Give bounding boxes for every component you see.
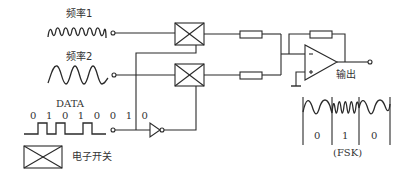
data-bits: 0 1 0 1 0 0 1 0 <box>30 111 151 121</box>
wire-ground <box>296 72 305 86</box>
freq1-label: 频率1 <box>66 9 92 19</box>
data-waveform <box>24 123 106 134</box>
fsk-waveform <box>303 100 390 114</box>
freq2-label: 频率2 <box>66 52 92 62</box>
fsk-bit-label-2: 0 <box>371 131 377 141</box>
op-amp <box>305 45 337 80</box>
electronic-switch-1 <box>175 23 204 45</box>
wire-inverter-to-switch2-control <box>164 86 196 130</box>
inverter-gate <box>150 123 164 137</box>
freq2-waveform <box>48 66 108 84</box>
fsk-bit-label-0: 0 <box>314 131 320 141</box>
fsk-caption: (FSK) <box>333 148 362 158</box>
resistor-feedback <box>310 31 332 38</box>
output-label: 输出 <box>336 70 356 80</box>
wire-feedback-left <box>289 34 310 54</box>
wire-feedback-right <box>332 34 345 62</box>
fsk-bit-label-1: 1 <box>342 131 348 141</box>
electronic-switch-2 <box>175 64 204 86</box>
legend-switch-symbol <box>24 146 62 168</box>
resistor-2 <box>240 72 262 79</box>
output-terminal <box>368 60 372 64</box>
data-label: DATA <box>56 99 84 109</box>
legend-label: 电子开关 <box>72 152 112 162</box>
freq2-terminal <box>112 73 116 77</box>
resistor-1 <box>240 31 262 38</box>
data-terminal <box>111 128 115 132</box>
freq1-terminal <box>111 31 115 35</box>
freq1-waveform <box>48 28 106 38</box>
